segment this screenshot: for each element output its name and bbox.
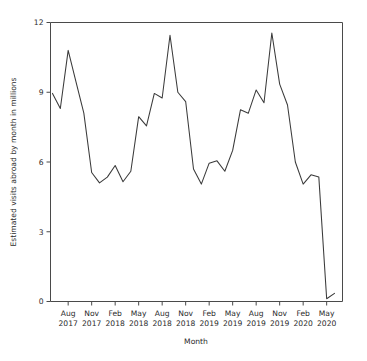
x-tick-label-year: 2019 [270,319,289,328]
x-tick-label-month: Aug [249,309,264,318]
x-tick-label-month: Aug [155,309,170,318]
x-tick-label-month: Feb [296,309,310,318]
x-tick-label-month: Aug [61,309,76,318]
chart-container: 036912 Aug2017Nov2017Feb2018May2018Aug20… [0,0,367,361]
y-tick-label: 9 [39,88,44,97]
x-tick-label-year: 2020 [294,319,313,328]
y-axis-title: Estimated visits abroad by month in mill… [9,77,18,246]
x-tick-label-month: Feb [108,309,122,318]
x-tick-label-year: 2018 [106,319,125,328]
x-tick-label-year: 2017 [82,319,101,328]
x-tick-label-year: 2020 [317,319,336,328]
x-tick-label-month: May [131,309,147,318]
x-tick-label-year: 2018 [176,319,195,328]
x-tick-label-year: 2018 [129,319,148,328]
x-tick-label-year: 2019 [200,319,219,328]
x-tick-label-month: Nov [272,309,287,318]
x-tick-label-month: May [319,309,335,318]
y-tick-label: 3 [39,228,44,237]
y-tick-label: 6 [39,158,44,167]
x-tick-label-year: 2019 [223,319,242,328]
line-chart: 036912 Aug2017Nov2017Feb2018May2018Aug20… [0,0,367,361]
x-tick-label-month: Nov [84,309,99,318]
x-tick-label-year: 2019 [247,319,266,328]
x-tick-label-month: Nov [178,309,193,318]
chart-background [0,0,367,361]
x-tick-label-year: 2017 [59,319,78,328]
y-tick-label: 12 [34,18,44,27]
y-tick-label: 0 [39,297,44,306]
x-axis-title: Month [184,337,208,346]
x-tick-label-month: May [225,309,241,318]
x-tick-label-year: 2018 [153,319,172,328]
x-tick-label-month: Feb [202,309,216,318]
